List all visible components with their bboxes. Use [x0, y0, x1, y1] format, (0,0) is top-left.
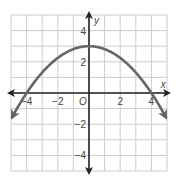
axes: [9, 13, 169, 173]
y-tick-label: 4: [80, 26, 86, 37]
coordinate-graph: −4−22442−2−4 x y O: [0, 0, 180, 180]
x-axis-label: x: [160, 79, 167, 90]
y-tick-label: 2: [80, 57, 86, 68]
x-tick-label: −2: [52, 96, 64, 107]
parabola-plot: −4−22442−2−4 x y O: [0, 0, 180, 180]
x-tick-label: 2: [117, 96, 123, 107]
origin-label: O: [79, 96, 87, 107]
y-axis-label: y: [93, 15, 100, 26]
y-tick-label: −4: [75, 150, 87, 161]
y-tick-label: −2: [75, 119, 87, 130]
